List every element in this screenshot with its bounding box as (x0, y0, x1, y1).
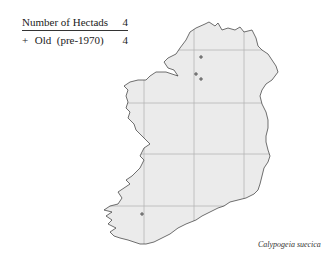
land-fill (104, 22, 278, 244)
distribution-map (0, 0, 333, 264)
species-name: Calypogeia suecica (258, 240, 321, 249)
